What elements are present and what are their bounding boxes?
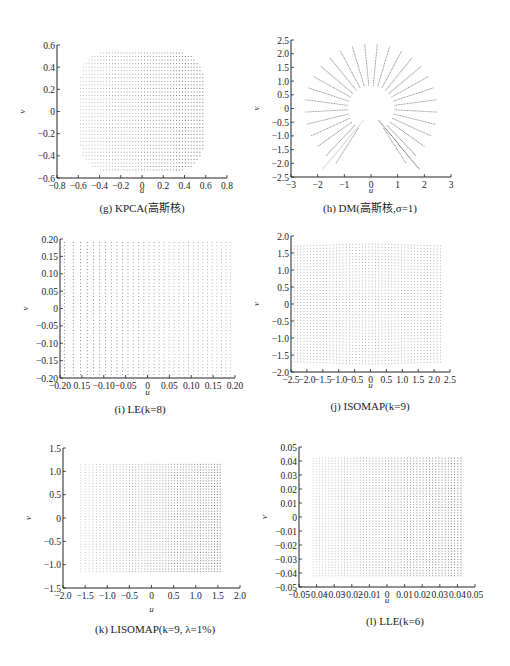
y-tick-label: −0.10 xyxy=(36,339,58,349)
x-tick-label: 2 xyxy=(422,180,427,190)
y-tick-label: −2.0 xyxy=(272,159,289,169)
axes: −0.05−0.04−0.03−0.02−0.0100.010.020.030.… xyxy=(259,443,484,606)
x-tick-label: 0.5 xyxy=(168,591,180,601)
caption-le: (i) LE(k=8) xyxy=(100,403,180,415)
x-axis-label: u xyxy=(368,380,373,390)
x-tick-label: −2.0 xyxy=(298,375,315,385)
panel-le: −0.200.15−0.10−0.0500.050.100.150.20−0.2… xyxy=(0,220,255,440)
scatter-points xyxy=(64,242,231,375)
y-tick-label: 0.2 xyxy=(43,85,55,95)
x-tick-label: 0.01 xyxy=(396,590,413,600)
y-tick-label: −0.15 xyxy=(36,356,58,366)
axes: −0.8−0.6−0.4−0.200.20.40.60.8−0.6−0.4−0.… xyxy=(17,41,233,196)
axes: −3−2−10123−2.5−2.0−1.5−1.0−0.500.51.01.5… xyxy=(255,36,454,196)
x-axis-label: u xyxy=(140,185,145,195)
x-tick-label: 0.10 xyxy=(183,381,200,391)
y-tick-label: 0.5 xyxy=(277,90,289,100)
y-tick-label: 2.0 xyxy=(277,232,289,242)
y-tick-label: −1.5 xyxy=(272,351,289,361)
y-tick-label: 0.5 xyxy=(277,283,289,293)
panel-lisomap: −2.0−1.5−1.0−0.500.51.01.52.0−1.5−1.0−0.… xyxy=(0,440,255,666)
y-tick-label: 0 xyxy=(292,513,297,523)
x-tick-label: −2 xyxy=(313,180,323,190)
chart-kpca: −0.8−0.6−0.4−0.200.20.40.60.8−0.6−0.4−0.… xyxy=(0,0,255,220)
axes: −0.200.15−0.10−0.0500.050.100.150.20−0.2… xyxy=(20,235,244,398)
y-tick-label: −0.05 xyxy=(275,583,297,593)
y-tick-label: −0.4 xyxy=(38,151,55,161)
caption-lle: (l) LLE(k=6) xyxy=(355,615,435,627)
x-tick-label: 1 xyxy=(395,180,400,190)
x-tick-label: 2.0 xyxy=(428,375,440,385)
caption-dm: (h) DM(高斯核,σ=1) xyxy=(315,199,425,215)
scatter-points xyxy=(80,464,220,572)
x-axis-label: u xyxy=(145,387,150,397)
y-tick-label: −0.01 xyxy=(275,527,297,537)
y-tick-label: 0.04 xyxy=(280,457,297,467)
y-tick-label: 2.5 xyxy=(277,36,289,46)
x-tick-label: −0.01 xyxy=(358,590,380,600)
y-tick-label: 0.10 xyxy=(41,269,58,279)
y-tick-label: 0.03 xyxy=(280,471,297,481)
x-tick-label: 0 xyxy=(149,591,154,601)
x-tick-label: 1.5 xyxy=(212,591,224,601)
scatter-points xyxy=(305,44,437,169)
caption-lisomap: (k) LISOMAP(k=9, λ=1%) xyxy=(95,623,205,635)
x-tick-label: −1.0 xyxy=(330,375,347,385)
y-tick-label: 0.01 xyxy=(280,499,297,509)
y-tick-label: 0 xyxy=(284,300,289,310)
y-tick-label: −0.02 xyxy=(275,541,297,551)
x-tick-label: 0.2 xyxy=(157,181,169,191)
x-tick-label: −1 xyxy=(339,180,349,190)
x-tick-label: 0.5 xyxy=(380,375,392,385)
x-tick-label: 0.04 xyxy=(449,590,466,600)
y-tick-label: 0 xyxy=(56,514,61,524)
x-tick-label: −0.5 xyxy=(346,375,363,385)
y-axis-label: v xyxy=(17,110,27,114)
y-tick-label: 0.5 xyxy=(49,490,61,500)
x-axis-label: u xyxy=(149,604,154,614)
axes: −2.0−1.5−1.0−0.500.51.01.52.0−1.5−1.0−0.… xyxy=(23,444,246,615)
x-tick-label: 1.0 xyxy=(396,375,408,385)
y-tick-label: −0.5 xyxy=(44,537,61,547)
y-tick-label: 0.4 xyxy=(43,63,55,73)
y-tick-label: −1.0 xyxy=(272,334,289,344)
y-tick-label: −0.20 xyxy=(36,374,58,384)
x-tick-label: 1.0 xyxy=(190,591,202,601)
x-axis-label: u xyxy=(369,185,374,195)
y-tick-label: 1.0 xyxy=(49,467,61,477)
chart-lle: −0.05−0.04−0.03−0.02−0.0100.010.020.030.… xyxy=(255,440,510,666)
scatter-points xyxy=(313,458,462,577)
y-tick-label: −0.04 xyxy=(275,569,297,579)
y-tick-label: 2.0 xyxy=(277,49,289,59)
y-axis-label: v xyxy=(20,307,30,311)
x-tick-label: 2.5 xyxy=(444,375,456,385)
y-tick-label: 1.5 xyxy=(277,249,289,259)
y-tick-label: −0.2 xyxy=(38,129,55,139)
y-axis-label: v xyxy=(255,107,261,111)
x-tick-label: 0.15 xyxy=(74,381,91,391)
y-tick-label: −0.5 xyxy=(272,118,289,128)
y-tick-label: 0.05 xyxy=(280,443,297,453)
x-tick-label: −1.5 xyxy=(77,591,94,601)
panel-kpca: −0.8−0.6−0.4−0.200.20.40.60.8−0.6−0.4−0.… xyxy=(0,0,255,220)
x-tick-label: 0.4 xyxy=(179,181,191,191)
y-tick-label: 0.15 xyxy=(41,252,58,262)
y-axis-label: v xyxy=(255,302,261,306)
x-tick-label: 0.05 xyxy=(161,381,178,391)
y-tick-label: 0 xyxy=(284,104,289,114)
y-tick-label: −1.0 xyxy=(44,560,61,570)
x-tick-label: 0.02 xyxy=(414,590,431,600)
y-tick-label: 1.0 xyxy=(277,266,289,276)
y-tick-label: −2.5 xyxy=(272,173,289,183)
x-tick-label: −0.5 xyxy=(121,591,138,601)
x-tick-label: 0.03 xyxy=(431,590,448,600)
panel-isomap: −2.5−2.0−1.5−1.0−0.500.51.01.52.02.5−2.0… xyxy=(255,220,510,440)
caption-isomap: (j) ISOMAP(k=9) xyxy=(325,400,415,412)
caption-kpca: (g) KPCA(高斯核) xyxy=(92,199,192,215)
panel-lle: −0.05−0.04−0.03−0.02−0.0100.010.020.030.… xyxy=(255,440,510,666)
x-tick-label: −0.10 xyxy=(93,381,115,391)
scatter-points xyxy=(80,53,203,171)
x-tick-label: 1.5 xyxy=(412,375,424,385)
axes: −2.5−2.0−1.5−1.0−0.500.51.01.52.02.5−2.0… xyxy=(255,232,456,391)
y-tick-label: 0.20 xyxy=(41,235,58,245)
